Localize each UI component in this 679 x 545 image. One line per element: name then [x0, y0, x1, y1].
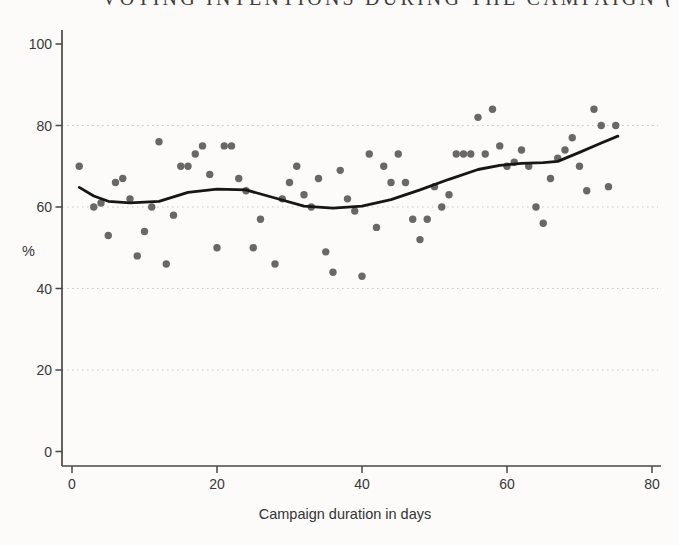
scatter-point	[366, 150, 373, 157]
scatter-point	[453, 150, 460, 157]
scatter-point	[474, 114, 481, 121]
scatter-point	[518, 146, 525, 153]
scatter-point	[380, 163, 387, 170]
scatter-chart-canvas	[0, 0, 679, 545]
scatter-point	[257, 216, 264, 223]
scatter-point	[177, 163, 184, 170]
scatter-point	[460, 150, 467, 157]
scatter-point	[409, 216, 416, 223]
x-tick-40: 40	[342, 476, 382, 492]
scatter-point	[192, 150, 199, 157]
scatter-point	[467, 150, 474, 157]
scatter-point	[438, 203, 445, 210]
x-tick-60: 60	[487, 476, 527, 492]
scatter-point	[119, 175, 126, 182]
y-tick-40: 40	[18, 281, 52, 297]
x-tick-80: 80	[632, 476, 672, 492]
scatter-point	[373, 224, 380, 231]
x-tick-20: 20	[197, 476, 237, 492]
x-tick-0: 0	[52, 476, 92, 492]
scatter-point	[155, 138, 162, 145]
scatter-point	[402, 179, 409, 186]
scatter-point	[170, 211, 177, 218]
scatter-point	[315, 175, 322, 182]
scatter-point	[228, 142, 235, 149]
scatter-point	[605, 183, 612, 190]
scatter-point	[141, 228, 148, 235]
y-axis-label: %	[22, 243, 35, 259]
scatter-point	[213, 244, 220, 251]
scatter-point	[76, 163, 83, 170]
scatter-point	[489, 106, 496, 113]
scatter-point	[344, 195, 351, 202]
y-tick-0: 0	[18, 444, 52, 460]
scanned-figure-page: VOTING INTENTIONS DURING THE CAMPAIGN ( …	[0, 0, 679, 545]
scatter-point	[482, 150, 489, 157]
scatter-point	[184, 163, 191, 170]
scatter-point	[199, 142, 206, 149]
y-tick-80: 80	[18, 118, 52, 134]
scatter-point	[271, 260, 278, 267]
scatter-point	[221, 142, 228, 149]
scatter-point	[576, 163, 583, 170]
scatter-point	[424, 216, 431, 223]
scatter-point	[90, 203, 97, 210]
scatter-point	[286, 179, 293, 186]
scatter-point	[598, 122, 605, 129]
y-tick-20: 20	[18, 362, 52, 378]
scatter-point	[358, 273, 365, 280]
scatter-point	[532, 203, 539, 210]
scatter-point	[293, 163, 300, 170]
scatter-point	[351, 207, 358, 214]
scatter-point	[163, 260, 170, 267]
scatter-point	[387, 179, 394, 186]
x-axis-label: Campaign duration in days	[195, 506, 495, 522]
scatter-point	[337, 167, 344, 174]
scatter-point	[206, 171, 213, 178]
y-tick-100: 100	[18, 36, 52, 52]
scatter-point	[148, 203, 155, 210]
scatter-point	[134, 252, 141, 259]
scatter-point	[496, 142, 503, 149]
y-tick-60: 60	[18, 199, 52, 215]
scatter-point	[395, 150, 402, 157]
scatter-point	[590, 106, 597, 113]
scatter-point	[235, 175, 242, 182]
scatter-point	[329, 269, 336, 276]
scatter-point	[105, 232, 112, 239]
scatter-point	[612, 122, 619, 129]
scatter-point	[416, 236, 423, 243]
scatter-point	[561, 146, 568, 153]
scatter-point	[445, 191, 452, 198]
scatter-point	[300, 191, 307, 198]
scatter-point	[583, 187, 590, 194]
scatter-point	[250, 244, 257, 251]
scatter-point	[112, 179, 119, 186]
scatter-point	[322, 248, 329, 255]
scatter-point	[540, 220, 547, 227]
scatter-point	[547, 175, 554, 182]
scatter-point	[569, 134, 576, 141]
